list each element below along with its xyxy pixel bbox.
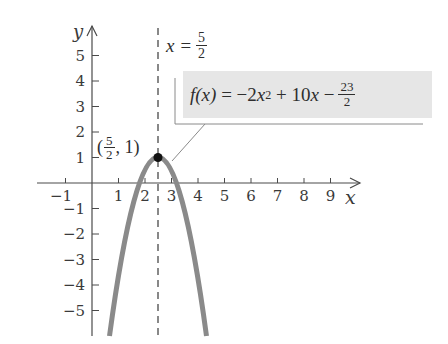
formula-mid: + 10 xyxy=(271,84,310,106)
y-tick-label: −2 xyxy=(63,225,85,243)
fraction-numerator: 5 xyxy=(196,30,207,46)
y-tick-label: 2 xyxy=(75,123,85,141)
formula-x: x xyxy=(257,84,265,106)
x-tick-label: 2 xyxy=(140,187,150,205)
y-tick-label: −3 xyxy=(63,251,85,269)
x-tick-label: 7 xyxy=(273,187,283,205)
x-tick-label: 1 xyxy=(114,187,124,205)
y-tick-label: 3 xyxy=(75,98,85,116)
formula-text: f (x) = −2 x 2 + 10 x − 23 2 xyxy=(190,72,355,117)
fraction-numerator: 5 xyxy=(104,134,115,148)
parabola-chart: −1 1 2 3 4 5 6 7 8 9 5 4 3 2 1 −1 −2 −3 … xyxy=(0,0,448,344)
formula-fraction: 23 2 xyxy=(338,80,355,109)
y-tick-label: 5 xyxy=(75,47,85,65)
formula-arg: (x) xyxy=(195,84,216,106)
x-axis-label: x xyxy=(345,186,356,208)
y-tick-label: −4 xyxy=(63,276,85,294)
y-tick-label: −1 xyxy=(63,200,85,218)
symmetry-fraction: 5 2 xyxy=(196,30,207,61)
fraction-denominator: 2 xyxy=(344,95,351,109)
vertex-point xyxy=(154,153,163,162)
x-tick-label: 4 xyxy=(193,187,203,205)
formula-eq: = −2 xyxy=(216,84,256,106)
formula-x: x xyxy=(310,84,318,106)
x-tick-label: 9 xyxy=(326,187,336,205)
y-axis-label: y xyxy=(72,21,84,42)
x-tick-label: 5 xyxy=(220,187,230,205)
axis-of-symmetry-label: x = 5 2 xyxy=(166,30,207,61)
vertex-label: ( 5 2 , 1) xyxy=(97,134,140,161)
vertex-fraction: 5 2 xyxy=(104,134,115,161)
x-ticks xyxy=(66,178,331,183)
callout-leader-line xyxy=(172,124,205,161)
y-tick-label: 4 xyxy=(75,72,85,90)
y-tick-label: 1 xyxy=(75,149,85,167)
y-tick-label: −5 xyxy=(63,302,85,320)
x-tick-labels: −1 1 2 3 4 5 6 7 8 9 xyxy=(50,187,335,205)
vertex-rest: , 1) xyxy=(116,137,140,158)
fraction-numerator: 23 xyxy=(338,80,355,95)
x-tick-label: 8 xyxy=(299,187,309,205)
x-tick-label: 6 xyxy=(246,187,256,205)
vertex-open-paren: ( xyxy=(97,137,103,158)
fraction-denominator: 2 xyxy=(198,46,205,61)
x-tick-label: 3 xyxy=(167,187,177,205)
fraction-denominator: 2 xyxy=(106,148,113,161)
formula-minus: − xyxy=(319,84,334,106)
symmetry-lhs: x = xyxy=(166,35,192,57)
